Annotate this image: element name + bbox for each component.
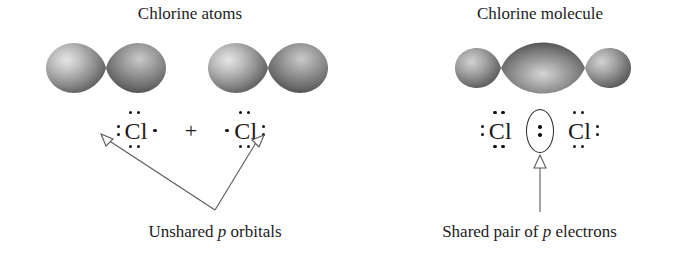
lewis-symbol: Cl xyxy=(231,118,260,144)
plus-operator: + xyxy=(185,120,197,142)
panel-title-chlorine-molecule: Chlorine molecule xyxy=(420,4,660,24)
electron-dot xyxy=(581,111,584,114)
electron-dot xyxy=(581,145,584,148)
electron-dot xyxy=(573,111,576,114)
lewis-symbol: Cl xyxy=(486,118,515,144)
electron-dot xyxy=(129,111,132,114)
caption-text-suffix: electrons xyxy=(551,222,617,241)
p-orbital-atom-1 xyxy=(46,43,166,93)
panel-title-chlorine-atoms: Chlorine atoms xyxy=(60,4,320,24)
electron-dot xyxy=(262,133,265,136)
caption-shared-pair: Shared pair of p electrons xyxy=(380,222,679,242)
electron-dot xyxy=(117,125,120,128)
outer-lobe-right xyxy=(585,48,631,88)
electron-dot xyxy=(501,111,504,114)
shared-electron-dot xyxy=(538,125,542,129)
caption-text-italic: p xyxy=(543,222,552,241)
electron-dot xyxy=(262,125,265,128)
electron-dot xyxy=(137,145,140,148)
electron-dot xyxy=(481,133,484,136)
caption-unshared-p-orbitals: Unshared p orbitals xyxy=(50,222,380,242)
electron-dot xyxy=(596,125,599,128)
electron-dot xyxy=(239,145,242,148)
electron-dot xyxy=(596,133,599,136)
lewis-symbol: Cl xyxy=(565,118,594,144)
caption-text-prefix: Unshared xyxy=(148,222,217,241)
electron-dot xyxy=(493,145,496,148)
unpaired-electron-dot xyxy=(225,129,228,132)
lewis-atom-chlorine-left: Cl xyxy=(122,118,151,144)
electron-dot xyxy=(573,145,576,148)
electron-dot xyxy=(137,111,140,114)
electron-dot xyxy=(481,125,484,128)
electron-dot xyxy=(117,133,120,136)
outer-lobe-left xyxy=(455,48,501,88)
p-orbital-atom-2 xyxy=(208,43,328,93)
electron-dot xyxy=(493,111,496,114)
lewis-atom-chlorine-right: Cl xyxy=(231,118,260,144)
bonding-overlap-region xyxy=(501,43,585,94)
lewis-structures-atoms: Cl + Cl xyxy=(60,108,322,154)
arrowhead-shared xyxy=(534,155,546,168)
lewis-symbol: Cl xyxy=(122,118,151,144)
caption-text-suffix: orbitals xyxy=(226,222,281,241)
shared-electron-pair-ellipse xyxy=(526,109,554,153)
chlorine-bonding-diagram: Chlorine atoms Chlorine molecule xyxy=(0,0,679,254)
caption-text-prefix: Shared pair of xyxy=(442,222,543,241)
lewis-structure-molecule: Cl Cl xyxy=(440,108,640,154)
unpaired-electron-dot xyxy=(153,129,156,132)
electron-dot xyxy=(247,145,250,148)
shared-electron-dot xyxy=(538,133,542,137)
lewis-atom-chlorine-bonded-left: Cl xyxy=(486,118,515,144)
electron-dot xyxy=(239,111,242,114)
electron-dot xyxy=(247,111,250,114)
electron-dot xyxy=(501,145,504,148)
electron-dot xyxy=(129,145,132,148)
lewis-atom-chlorine-bonded-right: Cl xyxy=(565,118,594,144)
molecular-orbital-cl2 xyxy=(455,43,631,94)
